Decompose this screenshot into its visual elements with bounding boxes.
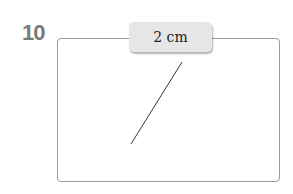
drawing-area [0,0,293,194]
line-segment [131,62,182,144]
